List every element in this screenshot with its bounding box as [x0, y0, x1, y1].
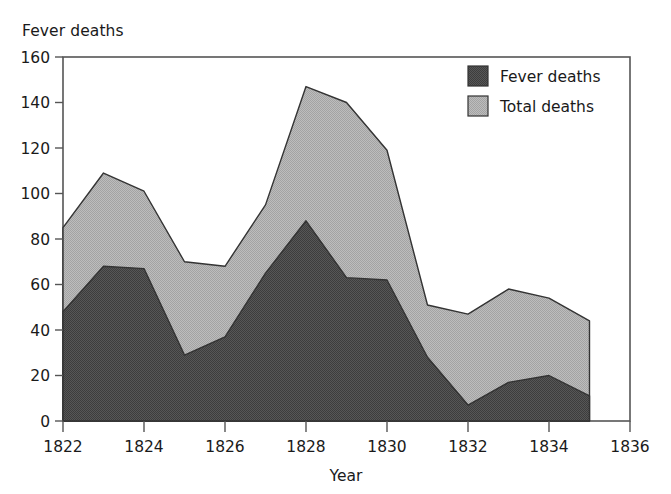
y-tick-label: 160 — [20, 49, 50, 67]
y-axis: 020406080100120140160 — [20, 49, 63, 431]
legend-swatch — [468, 96, 488, 116]
x-tick-label: 1822 — [43, 438, 82, 456]
y-tick-label: 120 — [20, 140, 50, 158]
y-tick-label: 140 — [20, 94, 50, 112]
area-chart: 020406080100120140160 182218241826182818… — [0, 0, 671, 494]
x-tick-label: 1824 — [124, 438, 163, 456]
y-tick-label: 60 — [30, 276, 50, 294]
legend-label: Fever deaths — [500, 68, 600, 86]
y-tick-label: 40 — [30, 322, 50, 340]
legend-swatch — [468, 66, 488, 86]
legend: Fever deathsTotal deaths — [468, 66, 600, 116]
y-tick-label: 0 — [40, 413, 50, 431]
legend-label: Total deaths — [499, 98, 594, 116]
x-tick-label: 1826 — [205, 438, 244, 456]
data-areas — [63, 87, 590, 421]
chart-page: Fever deaths 020406080100120140160 18221… — [0, 0, 671, 494]
x-tick-label: 1828 — [286, 438, 325, 456]
x-tick-label: 1832 — [448, 438, 487, 456]
x-tick-label: 1836 — [610, 438, 649, 456]
y-tick-label: 80 — [30, 231, 50, 249]
x-tick-label: 1834 — [529, 438, 568, 456]
y-tick-label: 100 — [20, 185, 50, 203]
x-tick-label: 1830 — [367, 438, 406, 456]
x-axis-title: Year — [329, 467, 363, 485]
x-axis: 18221824182618281830183218341836 — [43, 421, 649, 456]
y-tick-label: 20 — [30, 367, 50, 385]
